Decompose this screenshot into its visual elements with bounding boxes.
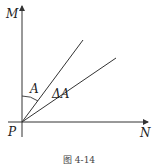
ray-a — [22, 40, 83, 122]
label-n: N — [139, 126, 151, 140]
figure-caption: 图 4-14 — [63, 155, 95, 165]
label-p: P — [7, 125, 17, 139]
angle-arc — [22, 96, 38, 101]
angle-diagram: M N P A ΔA 图 4-14 — [0, 0, 155, 167]
label-m: M — [5, 7, 19, 21]
label-delta-a: ΔA — [51, 87, 70, 101]
label-angle-a: A — [29, 82, 39, 96]
